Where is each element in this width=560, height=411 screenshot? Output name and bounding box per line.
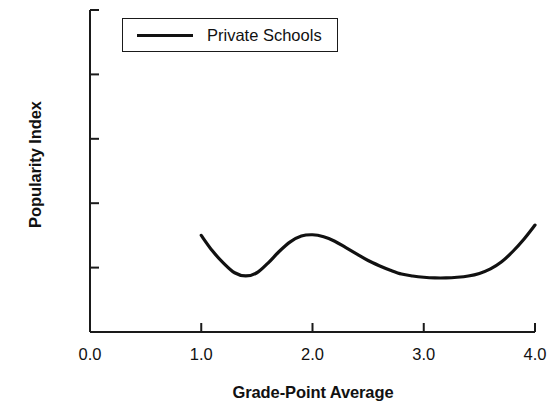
legend-label: Private Schools	[207, 27, 322, 44]
x-tick-label: 2.0	[278, 346, 348, 363]
data-series-group	[201, 225, 535, 278]
x-tick-label: 3.0	[389, 346, 459, 363]
x-axis-title: Grade-Point Average	[90, 383, 536, 402]
x-tick-label: 1.0	[166, 346, 236, 363]
x-tick-label: 4.0	[500, 346, 560, 363]
x-tick-label: 0.0	[55, 346, 125, 363]
chart-figure: -0.10.00.10.20.30.4 0.01.02.03.04.0 Popu…	[0, 0, 560, 411]
legend-line-swatch	[137, 34, 193, 37]
series-line	[201, 225, 535, 278]
axis-lines	[90, 10, 535, 332]
y-tick-marks	[90, 10, 99, 332]
chart-legend: Private Schools	[122, 18, 338, 52]
y-axis-title: Popularity Index	[26, 35, 45, 295]
x-tick-marks	[90, 323, 535, 332]
